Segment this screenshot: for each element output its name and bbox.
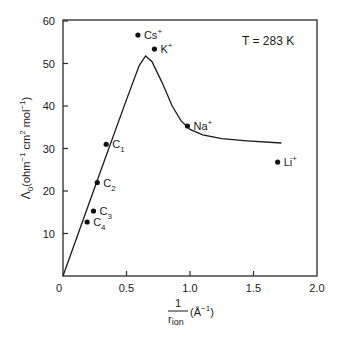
theoretical-curve bbox=[63, 56, 281, 276]
point-label: C4 bbox=[93, 216, 106, 232]
point-marker bbox=[85, 219, 90, 224]
y-axis-label: Λ0(ohm−1 cm2 mol−1) bbox=[18, 97, 35, 199]
y-tick-label: 50 bbox=[43, 58, 55, 70]
point-marker bbox=[91, 208, 96, 213]
point-marker bbox=[104, 142, 109, 147]
x-tick-label: 1.5 bbox=[246, 282, 261, 294]
x-tick-label: 0 bbox=[56, 282, 62, 294]
point-marker bbox=[275, 160, 280, 165]
temperature-annotation: T = 283 K bbox=[242, 34, 294, 48]
plot-frame bbox=[63, 20, 317, 276]
data-point-c1: C1 bbox=[104, 138, 126, 154]
chart-container: 102030405060 00.51.01.52.0 Cs+K+Na+Li+C1… bbox=[0, 0, 340, 341]
point-label: C1 bbox=[112, 138, 125, 154]
y-tick-label: 60 bbox=[43, 15, 55, 27]
data-point-na: Na+ bbox=[185, 118, 213, 132]
y-tick-label: 40 bbox=[43, 100, 55, 112]
point-label: C3 bbox=[99, 205, 112, 221]
molar-conductivity-plot: 102030405060 00.51.01.52.0 Cs+K+Na+Li+C1… bbox=[0, 0, 340, 341]
point-marker bbox=[152, 46, 157, 51]
data-point-li: Li+ bbox=[275, 154, 297, 168]
x-axis-label: 1rion(Å−1) bbox=[168, 297, 214, 327]
svg-text:rion: rion bbox=[168, 313, 184, 327]
x-axis-ticks: 00.51.01.52.0 bbox=[56, 271, 325, 294]
y-tick-label: 30 bbox=[43, 143, 55, 155]
y-tick-label: 20 bbox=[43, 185, 55, 197]
x-tick-label: 1.0 bbox=[182, 282, 197, 294]
data-point-c4: C4 bbox=[85, 216, 107, 232]
x-tick-label: 0.5 bbox=[119, 282, 134, 294]
point-marker bbox=[135, 32, 140, 37]
point-label: Cs+ bbox=[144, 27, 162, 41]
point-label: C2 bbox=[103, 177, 116, 193]
data-point-cs: Cs+ bbox=[135, 27, 162, 41]
point-label: Na+ bbox=[193, 118, 212, 132]
point-marker bbox=[95, 180, 100, 185]
point-label: K+ bbox=[160, 41, 172, 55]
point-marker bbox=[185, 123, 190, 128]
svg-text:1: 1 bbox=[175, 297, 181, 309]
svg-text:Λ0(ohm−1 cm2 mol−1): Λ0(ohm−1 cm2 mol−1) bbox=[18, 97, 35, 199]
svg-text:(Å−1): (Å−1) bbox=[190, 304, 214, 318]
data-point-k: K+ bbox=[152, 41, 173, 55]
y-axis-ticks: 102030405060 bbox=[43, 15, 68, 240]
point-label: Li+ bbox=[284, 154, 298, 168]
y-tick-label: 10 bbox=[43, 228, 55, 240]
x-tick-label: 2.0 bbox=[309, 282, 324, 294]
